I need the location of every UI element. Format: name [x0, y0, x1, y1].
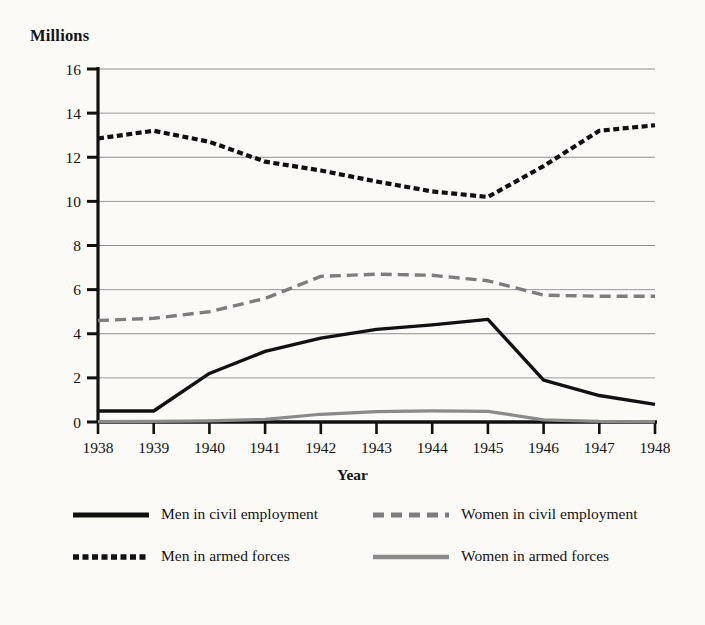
x-axis-tick-label: 1947 [584, 439, 615, 456]
y-axis-tick-label: 8 [73, 237, 81, 254]
line-chart: 0246810121416193819391940194119421943194… [0, 0, 705, 470]
y-axis-unit-label: Millions [30, 26, 89, 46]
legend-label-men-armed: Men in armed forces [161, 547, 290, 565]
legend-label-men-civil: Men in civil employment [161, 505, 318, 523]
y-axis-tick-label: 0 [73, 414, 81, 431]
x-axis-tick-label: 1948 [640, 439, 671, 456]
x-axis-tick-label: 1942 [305, 439, 336, 456]
solid-gray-line-icon [372, 549, 450, 565]
legend-item-men-civil[interactable]: Men in civil employment [72, 505, 372, 523]
chart-legend: Men in civil employment Women in civil e… [72, 505, 672, 589]
legend-item-women-civil[interactable]: Women in civil employment [372, 505, 672, 523]
legend-label-women-civil: Women in civil employment [461, 505, 638, 523]
x-axis-tick-label: 1939 [138, 439, 169, 456]
x-axis-tick-label: 1938 [83, 439, 114, 456]
x-axis-tick-label: 1943 [361, 439, 392, 456]
x-axis-tick-label: 1946 [528, 439, 559, 456]
y-axis-tick-label: 2 [73, 369, 81, 386]
x-axis-tick-label: 1944 [417, 439, 448, 456]
series-line [98, 319, 655, 411]
y-axis-tick-label: 10 [66, 193, 82, 210]
y-axis-tick-label: 14 [66, 105, 82, 122]
legend-label-women-armed: Women in armed forces [461, 547, 609, 565]
series-line [98, 411, 655, 422]
chart-container: Millions 0246810121416193819391940194119… [0, 0, 705, 625]
dashed-gray-line-icon [372, 507, 450, 523]
x-axis-tick-label: 1941 [250, 439, 281, 456]
x-axis-tick-label: 1940 [194, 439, 225, 456]
y-axis-tick-label: 6 [73, 281, 81, 298]
series-line [98, 125, 655, 197]
dotted-black-line-icon [72, 549, 150, 565]
series-line [98, 274, 655, 320]
solid-black-line-icon [72, 507, 150, 523]
legend-item-women-armed[interactable]: Women in armed forces [372, 547, 672, 565]
y-axis-tick-label: 4 [73, 325, 81, 342]
legend-item-men-armed[interactable]: Men in armed forces [72, 547, 372, 565]
y-axis-tick-label: 12 [66, 149, 82, 166]
x-axis-title: Year [0, 466, 705, 484]
y-axis-tick-label: 16 [66, 61, 82, 78]
x-axis-tick-label: 1945 [472, 439, 503, 456]
